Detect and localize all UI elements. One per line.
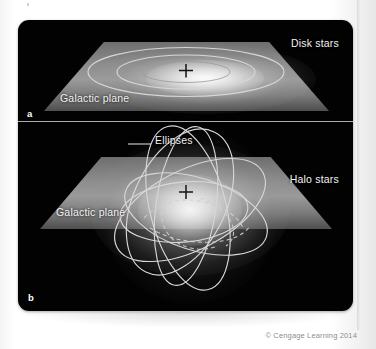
page-shadow bbox=[18, 312, 354, 328]
halo-orbit-2 bbox=[99, 137, 281, 283]
panel-b-halo-stars: Ellipses Halo stars Galactic plane b bbox=[18, 122, 353, 311]
label-ellipses: Ellipses bbox=[155, 134, 193, 146]
halo-orbit-1 bbox=[131, 122, 245, 299]
halo-orbit-5 bbox=[145, 123, 227, 290]
galactic-center-cross-b bbox=[179, 185, 193, 199]
panel-b-stage: Ellipses Halo stars Galactic plane b bbox=[18, 122, 353, 311]
halo-orbit-4 bbox=[114, 157, 277, 271]
label-halo-stars: Halo stars bbox=[290, 173, 339, 185]
panel-a-disk-stars: Disk stars Galactic plane a bbox=[18, 20, 353, 121]
panel-letter-a: a bbox=[27, 108, 32, 119]
panel-letter-b: b bbox=[28, 292, 34, 303]
copyright-notice: © Cengage Learning 2014 bbox=[265, 331, 357, 340]
figure-image: Disk stars Galactic plane a bbox=[18, 20, 353, 311]
scanned-page-background: Disk stars Galactic plane a bbox=[0, 0, 376, 349]
label-disk-stars: Disk stars bbox=[291, 37, 339, 49]
scan-artifact-speck bbox=[27, 3, 29, 6]
label-galactic-plane-b: Galactic plane bbox=[56, 206, 125, 218]
galactic-center-cross-a bbox=[179, 64, 193, 78]
panel-a-stage: Disk stars Galactic plane a bbox=[18, 20, 353, 121]
label-galactic-plane-a: Galactic plane bbox=[60, 92, 129, 104]
disk-orbits-svg bbox=[18, 20, 353, 121]
